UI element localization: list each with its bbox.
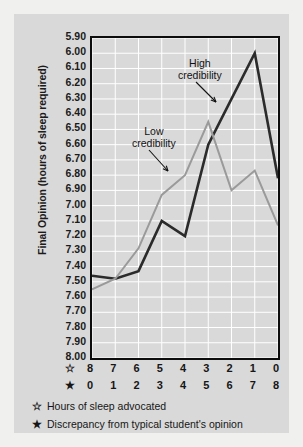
y-tick-6-50: 6.50 bbox=[44, 121, 86, 133]
annotation-high-line1: High bbox=[178, 58, 222, 70]
x-tick-discrepancy-4: 4 bbox=[175, 379, 191, 391]
x-tick-discrepancy-2: 2 bbox=[129, 379, 145, 391]
footnote-1-symbol: ★ bbox=[32, 418, 42, 431]
series-high-credibility bbox=[92, 53, 278, 279]
discrepancy-symbol: ★ bbox=[62, 379, 78, 392]
y-tick-8-00: 8.00 bbox=[44, 350, 86, 362]
plot-area: High credibility Low credibility bbox=[90, 36, 280, 360]
y-tick-6-10: 6.10 bbox=[44, 60, 86, 72]
footnote-legend: ☆Hours of sleep advocated★Discrepancy fr… bbox=[32, 400, 282, 436]
y-tick-6-40: 6.40 bbox=[44, 106, 86, 118]
y-axis-tick-labels: 5.906.006.106.206.306.406.506.606.706.80… bbox=[44, 36, 86, 356]
chart-card: Final Opinion (hours of sleep required) … bbox=[14, 14, 289, 433]
x-tick-hours-of-sleep-advocated-8: 0 bbox=[268, 362, 284, 374]
x-axis-row-discrepancy: ★012345678 bbox=[62, 379, 286, 396]
y-tick-7-80: 7.80 bbox=[44, 320, 86, 332]
footnote-0-symbol: ☆ bbox=[32, 400, 42, 413]
arrow-low-credibility bbox=[149, 150, 168, 171]
footnote-0: ☆Hours of sleep advocated bbox=[32, 400, 282, 413]
x-tick-hours-of-sleep-advocated-2: 6 bbox=[129, 362, 145, 374]
footnote-1-text: Discrepancy from typical student's opini… bbox=[47, 418, 243, 430]
annotation-low-line2: credibility bbox=[132, 138, 176, 150]
x-tick-hours-of-sleep-advocated-5: 3 bbox=[198, 362, 214, 374]
x-tick-hours-of-sleep-advocated-3: 5 bbox=[152, 362, 168, 374]
x-tick-hours-of-sleep-advocated-7: 1 bbox=[245, 362, 261, 374]
x-tick-hours-of-sleep-advocated-4: 4 bbox=[175, 362, 191, 374]
y-tick-6-20: 6.20 bbox=[44, 76, 86, 88]
x-tick-discrepancy-3: 3 bbox=[152, 379, 168, 391]
x-tick-discrepancy-7: 7 bbox=[245, 379, 261, 391]
y-tick-6-70: 6.70 bbox=[44, 152, 86, 164]
data-series-lines bbox=[92, 38, 278, 358]
y-tick-7-30: 7.30 bbox=[44, 243, 86, 255]
y-tick-6-90: 6.90 bbox=[44, 182, 86, 194]
y-tick-7-90: 7.90 bbox=[44, 335, 86, 347]
x-tick-discrepancy-6: 6 bbox=[222, 379, 238, 391]
x-axis-row-hours-of-sleep-advocated: ☆876543210 bbox=[62, 362, 286, 379]
y-tick-6-80: 6.80 bbox=[44, 167, 86, 179]
y-tick-7-50: 7.50 bbox=[44, 274, 86, 286]
y-tick-7-10: 7.10 bbox=[44, 213, 86, 225]
hours-of-sleep-advocated-symbol: ☆ bbox=[62, 362, 78, 375]
y-tick-7-60: 7.60 bbox=[44, 289, 86, 301]
y-tick-6-00: 6.00 bbox=[44, 45, 86, 57]
x-tick-discrepancy-1: 1 bbox=[105, 379, 121, 391]
y-tick-7-00: 7.00 bbox=[44, 198, 86, 210]
annotation-high-line2: credibility bbox=[178, 70, 222, 82]
x-axis-tick-labels: ☆876543210★012345678 bbox=[62, 362, 286, 396]
y-tick-7-40: 7.40 bbox=[44, 259, 86, 271]
annotation-low-credibility: Low credibility bbox=[132, 126, 176, 150]
footnote-1: ★Discrepancy from typical student's opin… bbox=[32, 418, 282, 431]
y-tick-6-30: 6.30 bbox=[44, 91, 86, 103]
y-tick-5-90: 5.90 bbox=[44, 30, 86, 42]
x-tick-hours-of-sleep-advocated-1: 7 bbox=[105, 362, 121, 374]
y-tick-7-20: 7.20 bbox=[44, 228, 86, 240]
footnote-0-text: Hours of sleep advocated bbox=[47, 400, 166, 412]
y-tick-7-70: 7.70 bbox=[44, 304, 86, 316]
annotation-low-line1: Low bbox=[132, 126, 176, 138]
series-low-credibility bbox=[92, 122, 278, 290]
y-tick-6-60: 6.60 bbox=[44, 137, 86, 149]
x-tick-discrepancy-0: 0 bbox=[82, 379, 98, 391]
x-tick-hours-of-sleep-advocated-6: 2 bbox=[222, 362, 238, 374]
annotation-high-credibility: High credibility bbox=[178, 58, 222, 82]
x-tick-discrepancy-5: 5 bbox=[198, 379, 214, 391]
x-tick-discrepancy-8: 8 bbox=[268, 379, 284, 391]
arrow-high-credibility bbox=[196, 82, 216, 102]
x-tick-hours-of-sleep-advocated-0: 8 bbox=[82, 362, 98, 374]
